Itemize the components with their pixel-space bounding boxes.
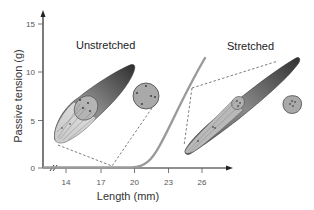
unstretched-cross-section <box>133 83 159 109</box>
x-axis: 14 17 20 23 26 Length (mm) <box>43 165 233 202</box>
x-tick-26: 26 <box>198 178 207 187</box>
stretched-cross-section <box>283 96 302 114</box>
y-tick-0: 0 <box>31 164 36 173</box>
stretched-muscle-illustration <box>185 57 300 154</box>
y-axis: 0 5 10 15 Passive tension (g) <box>12 10 46 173</box>
stretched-label: Stretched <box>227 40 274 52</box>
x-tick-23: 23 <box>164 178 173 187</box>
x-tick-20: 20 <box>130 178 139 187</box>
y-axis-title: Passive tension (g) <box>12 49 24 143</box>
y-tick-15: 15 <box>26 20 35 29</box>
y-tick-10: 10 <box>26 68 35 77</box>
x-tick-17: 17 <box>97 178 106 187</box>
x-tick-14: 14 <box>62 178 71 187</box>
y-axis-arrow-icon <box>41 10 46 17</box>
x-axis-arrow-icon <box>226 166 233 171</box>
unstretched-label: Unstretched <box>76 39 135 51</box>
y-tick-5: 5 <box>31 117 36 126</box>
length-tension-figure: 0 5 10 15 Passive tension (g) 14 17 20 2… <box>0 0 314 210</box>
unstretched-muscle-illustration <box>54 65 134 143</box>
x-axis-title: Length (mm) <box>97 190 159 202</box>
